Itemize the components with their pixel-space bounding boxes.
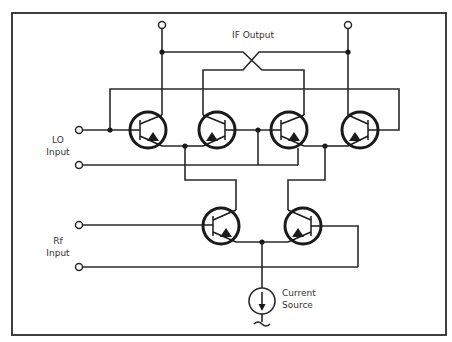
diagram-frame [12,13,446,335]
junction-dot [159,49,164,54]
rf-input-label: Rf Input [40,235,76,259]
rf-input-terminal-minus[interactable] [76,264,83,271]
current-source-label-line2: Source [282,299,316,311]
junction-dot [107,127,112,132]
junction-dot [182,143,187,148]
junction-dot [345,49,350,54]
lo-input-terminal-minus[interactable] [76,162,83,169]
transistor-q6 [285,208,321,244]
lo-input-label: LO Input [40,134,76,158]
transistor-q4 [342,112,378,148]
lo-input-label-line2: Input [40,146,76,158]
transistor-q5 [203,208,239,244]
if-output-label: IF Output [232,29,274,41]
if-output-wiring [162,29,348,115]
junction-dot [322,143,327,148]
current-source-symbol [249,288,275,314]
lo-wiring [83,89,399,210]
circuit-schematic [0,0,452,342]
rf-input-terminal-plus[interactable] [76,222,83,229]
rf-input-label-line1: Rf [40,235,76,247]
rf-input-label-line2: Input [40,247,76,259]
current-source-label: Current Source [282,287,316,311]
lo-input-label-line1: LO [40,134,76,146]
current-source-label-line1: Current [282,287,316,299]
transistor-q2 [199,112,235,148]
transistor-q3 [271,112,307,148]
junction-dot [259,239,264,244]
lo-input-terminal-plus[interactable] [76,127,83,134]
junction-dot [255,127,260,132]
if-output-terminal-right[interactable] [345,22,352,29]
transistor-q1 [130,112,166,148]
if-output-terminal-left[interactable] [159,22,166,29]
